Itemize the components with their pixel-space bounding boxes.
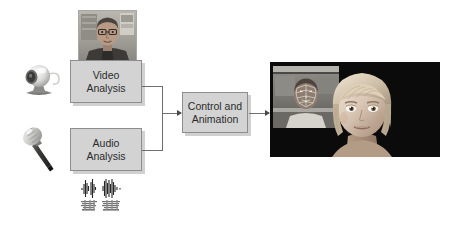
- avatar-render-output: [270, 62, 440, 157]
- node-audio-analysis-label-line2: Analysis: [86, 150, 125, 163]
- node-control-and-animation[interactable]: Control and Animation: [182, 92, 248, 133]
- node-video-analysis-label-line1: Video: [93, 69, 120, 82]
- arrow-head-to-control: [177, 110, 182, 116]
- node-control-and-animation-label-line2: Animation: [192, 113, 239, 126]
- connector-merge-bar: [162, 86, 163, 151]
- connector-video-to-junction: [142, 86, 162, 87]
- connector-audio-to-junction: [142, 150, 162, 151]
- node-video-analysis[interactable]: Video Analysis: [70, 60, 142, 103]
- diagram-title: Audio-visual driven facial animation pip…: [0, 0, 1, 1]
- microphone-icon: [18, 124, 62, 174]
- node-audio-analysis[interactable]: Audio Analysis: [70, 128, 142, 171]
- node-control-and-animation-label-line1: Control and: [188, 100, 242, 113]
- person-photo-thumbnail: [78, 10, 137, 64]
- diagram-canvas: Video Analysis Audio Analysis Control an…: [0, 0, 460, 229]
- node-video-analysis-label-line2: Analysis: [86, 82, 125, 95]
- node-audio-analysis-label-line1: Audio: [93, 137, 120, 150]
- audio-waveform-spectrogram: [76, 178, 142, 212]
- webcam-icon: [18, 60, 62, 98]
